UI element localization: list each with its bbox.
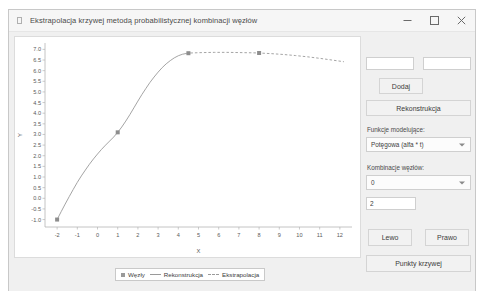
chart-panel: 7.06.56.05.55.04.54.03.53.02.52.01.51.00… xyxy=(14,36,361,258)
svg-text:3.5: 3.5 xyxy=(33,121,41,127)
svg-text:2.5: 2.5 xyxy=(33,142,41,148)
legend-item-reconstruction: Rekonstrukcja xyxy=(150,271,203,278)
legend-label-extrapolation: Ekstrapolacja xyxy=(222,271,259,278)
left-button[interactable]: Lewo xyxy=(368,229,412,246)
svg-text:3.0: 3.0 xyxy=(33,131,41,137)
x-coordinate-input[interactable] xyxy=(366,57,414,70)
node-combinations-label: Kombinacje węzłów: xyxy=(367,164,424,171)
add-button[interactable]: Dodaj xyxy=(379,78,423,94)
svg-text:2: 2 xyxy=(136,232,139,238)
svg-text:-0.5: -0.5 xyxy=(31,206,41,212)
svg-text:7: 7 xyxy=(237,232,240,238)
coordinate-inputs xyxy=(366,57,471,70)
curve-points-button[interactable]: Punkty krzywej xyxy=(366,255,471,272)
svg-text:4.0: 4.0 xyxy=(33,110,41,116)
reconstruct-button[interactable]: Rekonstrukcja xyxy=(366,100,471,116)
control-panel: Dodaj Rekonstrukcja Funkcje modelujące: … xyxy=(366,36,471,286)
legend-label-nodes: Węzły xyxy=(128,271,145,278)
svg-text:-2: -2 xyxy=(55,232,60,238)
svg-text:Y: Y xyxy=(17,133,23,137)
svg-text:9: 9 xyxy=(278,232,281,238)
svg-text:4: 4 xyxy=(177,232,180,238)
svg-text:1: 1 xyxy=(116,232,119,238)
svg-text:3: 3 xyxy=(157,232,160,238)
dashed-line-icon xyxy=(208,274,219,275)
svg-text:4.5: 4.5 xyxy=(33,100,41,106)
model-functions-select[interactable]: Potęgowa (alfa * t) xyxy=(366,137,471,152)
screen: Ekstrapolacja krzywej metodą probabilist… xyxy=(0,0,484,300)
solid-line-icon xyxy=(150,274,161,275)
node-combinations-value: 0 xyxy=(371,179,375,186)
svg-text:6.5: 6.5 xyxy=(33,57,41,63)
chevron-down-icon-2 xyxy=(459,181,465,184)
svg-text:12: 12 xyxy=(337,232,343,238)
chart-legend: Węzły Rekonstrukcja Ekstrapolacja xyxy=(115,268,265,281)
legend-item-extrapolation: Ekstrapolacja xyxy=(208,271,259,278)
svg-text:8: 8 xyxy=(258,232,261,238)
svg-text:5.0: 5.0 xyxy=(33,89,41,95)
window-title: Ekstrapolacja krzywej metodą probabilist… xyxy=(30,16,394,25)
close-icon[interactable] xyxy=(448,10,475,31)
model-functions-value: Potęgowa (alfa * t) xyxy=(371,141,424,148)
model-functions-label: Funkcje modelujące: xyxy=(367,126,425,133)
svg-text:-1: -1 xyxy=(75,232,80,238)
svg-text:0.0: 0.0 xyxy=(33,195,41,201)
svg-text:X: X xyxy=(197,248,201,254)
svg-text:5.5: 5.5 xyxy=(33,78,41,84)
right-button[interactable]: Prawo xyxy=(425,229,469,246)
svg-text:5: 5 xyxy=(197,232,200,238)
svg-text:10: 10 xyxy=(296,232,302,238)
legend-item-nodes: Węzły xyxy=(121,271,145,278)
maximize-icon[interactable] xyxy=(421,10,448,31)
window-controls xyxy=(394,10,475,32)
count-input[interactable] xyxy=(366,197,416,210)
svg-text:1.0: 1.0 xyxy=(33,174,41,180)
svg-text:7.0: 7.0 xyxy=(33,46,41,52)
application-window: Ekstrapolacja krzywej metodą probabilist… xyxy=(8,9,476,291)
square-marker-icon xyxy=(121,273,125,277)
svg-text:0: 0 xyxy=(96,232,99,238)
minimize-icon[interactable] xyxy=(394,10,421,31)
svg-text:-1.0: -1.0 xyxy=(31,217,41,223)
title-bar: Ekstrapolacja krzywej metodą probabilist… xyxy=(9,10,475,32)
legend-label-reconstruction: Rekonstrukcja xyxy=(164,271,203,278)
svg-text:6.0: 6.0 xyxy=(33,68,41,74)
app-icon xyxy=(15,16,25,26)
svg-text:0.5: 0.5 xyxy=(33,185,41,191)
client-area: 7.06.56.05.55.04.54.03.53.02.52.01.51.00… xyxy=(9,32,475,291)
svg-text:2.0: 2.0 xyxy=(33,153,41,159)
svg-text:6: 6 xyxy=(217,232,220,238)
svg-text:11: 11 xyxy=(317,232,323,238)
node-combinations-select[interactable]: 0 xyxy=(366,175,471,190)
y-coordinate-input[interactable] xyxy=(423,57,471,70)
curve-chart: 7.06.56.05.55.04.54.03.53.02.52.01.51.00… xyxy=(15,37,360,257)
svg-text:1.5: 1.5 xyxy=(33,163,41,169)
chevron-down-icon xyxy=(459,143,465,146)
